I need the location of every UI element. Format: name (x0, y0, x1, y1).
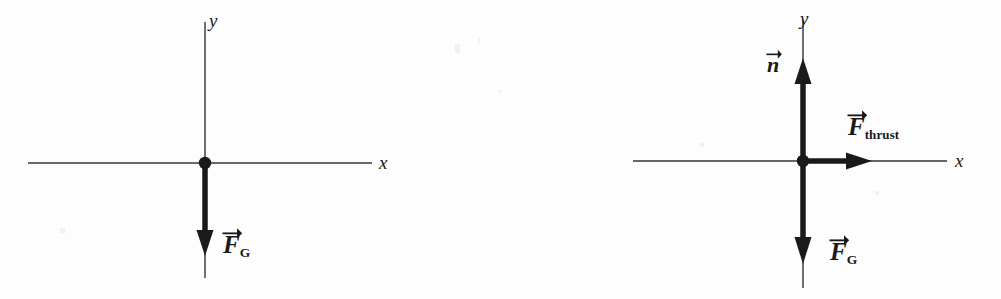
normal-vector-label: n (767, 54, 779, 76)
x-axis-label: x (379, 153, 387, 172)
weight-vector-label: FG (830, 239, 857, 267)
weight-symbol-subscript: G (240, 245, 251, 260)
weight-symbol-subscript: G (847, 252, 858, 267)
origin-dot (797, 155, 809, 167)
normal-symbol-letter: n (767, 52, 779, 77)
x-axis-label: x (955, 151, 963, 170)
weight-symbol-letter: F (830, 238, 847, 265)
thrust-symbol-subscript: thrust (865, 127, 900, 142)
diagram-right-graphics (500, 0, 1001, 299)
origin-dot (199, 157, 211, 169)
figure-canvas: y x FG (0, 0, 1001, 299)
normal-symbol: n (767, 54, 779, 76)
weight-vector-label: FG (223, 232, 250, 260)
diagram-right: y x n Fthrust (500, 0, 1001, 299)
thrust-symbol-letter: F (848, 113, 865, 140)
weight-symbol: F (830, 239, 847, 264)
weight-vector-arrowhead (795, 237, 812, 264)
weight-symbol: F (223, 232, 240, 257)
thrust-symbol: F (848, 114, 865, 139)
thrust-vector-label: Fthrust (848, 114, 899, 141)
y-axis-label: y (209, 11, 217, 30)
weight-symbol-letter: F (223, 231, 240, 258)
normal-vector-arrowhead (795, 58, 812, 84)
diagram-left: y x FG (0, 0, 500, 299)
weight-vector-arrowhead (197, 230, 214, 256)
thrust-vector-arrowhead (846, 153, 872, 170)
y-axis-label: y (800, 9, 808, 28)
